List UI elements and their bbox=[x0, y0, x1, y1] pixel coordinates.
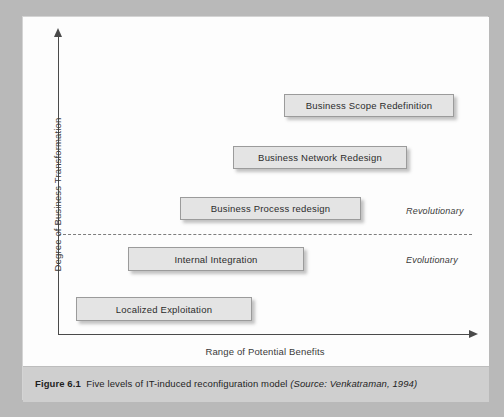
x-axis-arrowhead-icon bbox=[469, 330, 478, 338]
figure-card: Degree of Business Transformation Range … bbox=[22, 16, 488, 400]
figure-caption-source: (Source: Venkatraman, 1994) bbox=[290, 378, 417, 389]
level-box-localized-exploitation[interactable]: Localized Exploitation bbox=[76, 297, 252, 321]
figure-caption-band: Figure 6.1 Five levels of IT-induced rec… bbox=[23, 366, 489, 402]
x-axis-line bbox=[58, 334, 472, 335]
evolutionary-revolutionary-divider bbox=[58, 234, 472, 235]
figure-caption-body: Five levels of IT-induced reconfiguratio… bbox=[86, 378, 287, 389]
level-box-label: Internal Integration bbox=[174, 254, 257, 265]
figure-caption-number: Figure 6.1 bbox=[35, 378, 81, 389]
level-box-label: Business Scope Redefinition bbox=[306, 100, 432, 111]
level-box-label: Business Network Redesign bbox=[258, 152, 382, 163]
level-box-business-scope-redefinition[interactable]: Business Scope Redefinition bbox=[284, 94, 454, 117]
level-box-business-process-redesign[interactable]: Business Process redesign bbox=[180, 197, 361, 220]
level-box-label: Localized Exploitation bbox=[116, 304, 212, 315]
level-box-business-network-redesign[interactable]: Business Network Redesign bbox=[233, 146, 407, 169]
y-axis-arrowhead-icon bbox=[54, 28, 62, 37]
level-box-label: Business Process redesign bbox=[211, 203, 331, 214]
chart-plot-area: Degree of Business Transformation Range … bbox=[23, 17, 489, 366]
x-axis-title: Range of Potential Benefits bbox=[58, 346, 472, 357]
figure-caption: Figure 6.1 Five levels of IT-induced rec… bbox=[35, 378, 417, 389]
y-axis-title: Degree of Business Transformation bbox=[52, 95, 63, 295]
level-box-internal-integration[interactable]: Internal Integration bbox=[128, 247, 304, 271]
zone-label-evolutionary: Evolutionary bbox=[406, 255, 458, 265]
zone-label-revolutionary: Revolutionary bbox=[406, 206, 464, 216]
